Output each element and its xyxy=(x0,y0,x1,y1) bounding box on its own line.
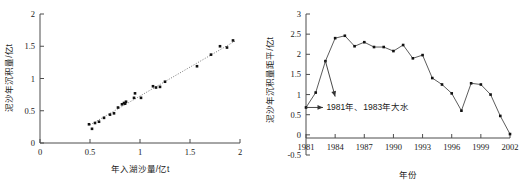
scatter-point xyxy=(159,86,162,89)
scatter-plot-svg: 00.511.52 00.511.52 年入湖沙量/亿t 泥沙年沉积量/亿t xyxy=(0,0,262,183)
scatter-point xyxy=(98,120,101,123)
timeseries-point xyxy=(402,44,405,47)
timeseries-y-ticks: -0.500.511.522.53 xyxy=(288,9,310,160)
scatter-point xyxy=(196,65,199,68)
figure-root: 00.511.52 00.511.52 年入湖沙量/亿t 泥沙年沉积量/亿t 1… xyxy=(0,0,523,183)
timeseries-x-axis-title: 年份 xyxy=(399,170,417,180)
scatter-x-axis-title: 年入湖沙量/亿t xyxy=(111,164,170,174)
timeseries-point xyxy=(460,109,463,112)
scatter-point xyxy=(109,113,112,116)
timeseries-point xyxy=(344,34,347,37)
y-tick-label: 2 xyxy=(297,49,301,59)
scatter-point xyxy=(210,53,213,56)
scatter-point xyxy=(134,92,137,95)
timeseries-series-line xyxy=(306,36,510,134)
timeseries-point xyxy=(373,46,376,49)
timeseries-point xyxy=(412,57,415,60)
annotation-arrow-shaft xyxy=(325,61,335,96)
scatter-point xyxy=(103,117,106,120)
timeseries-point xyxy=(499,115,502,118)
timeseries-point xyxy=(431,77,434,80)
scatter-point xyxy=(232,39,235,42)
y-tick-label: 1.5 xyxy=(24,41,35,51)
x-tick-label: 1984 xyxy=(327,142,345,152)
scatter-point xyxy=(88,123,91,126)
x-tick-label: 1990 xyxy=(385,142,402,152)
x-tick-label: 0 xyxy=(38,147,42,157)
chart-panel-timeseries: 19811984198719901993199619992002 -0.500.… xyxy=(262,0,523,183)
scatter-y-axis-title: 泥沙年沉积量/亿t xyxy=(4,44,14,112)
x-tick-label: 1.5 xyxy=(185,147,196,157)
timeseries-point xyxy=(421,54,424,57)
annotation-arrow-head xyxy=(318,105,324,110)
y-tick-label: 1 xyxy=(297,90,301,100)
timeseries-point xyxy=(509,133,512,136)
scatter-trendline xyxy=(90,41,235,125)
y-tick-label: 0.5 xyxy=(290,110,301,120)
scatter-point xyxy=(140,97,143,100)
x-tick-label: 0.5 xyxy=(85,147,96,157)
scatter-point xyxy=(133,97,136,100)
timeseries-points xyxy=(305,34,512,135)
y-tick-label: 2.5 xyxy=(290,29,301,39)
timeseries-annotation-label: 1981年、1983年大水 xyxy=(326,102,409,112)
scatter-point xyxy=(219,45,222,48)
timeseries-point xyxy=(470,82,473,85)
x-tick-label: 1999 xyxy=(472,142,489,152)
scatter-point xyxy=(155,86,158,89)
timeseries-x-ticks: 19811984198719901993199619992002 xyxy=(298,134,519,152)
y-tick-label: 2 xyxy=(31,9,35,19)
scatter-point xyxy=(125,100,128,103)
timeseries-plot-svg: 19811984198719901993199619992002 -0.500.… xyxy=(262,0,523,183)
timeseries-point xyxy=(450,92,453,95)
scatter-point xyxy=(94,122,97,125)
x-tick-label: 1993 xyxy=(414,142,431,152)
chart-panel-scatter: 00.511.52 00.511.52 年入湖沙量/亿t 泥沙年沉积量/亿t xyxy=(0,0,262,183)
x-tick-label: 1996 xyxy=(443,142,460,152)
y-tick-label: 1.5 xyxy=(290,69,301,79)
scatter-x-ticks: 00.511.52 xyxy=(38,139,242,157)
scatter-point xyxy=(113,112,116,115)
scatter-point xyxy=(117,106,120,109)
x-tick-label: 1987 xyxy=(356,142,373,152)
timeseries-point xyxy=(353,45,356,48)
y-tick-label: 0 xyxy=(31,138,35,148)
y-tick-label: -0.5 xyxy=(288,150,301,160)
timeseries-point xyxy=(392,50,395,53)
x-tick-label: 1 xyxy=(138,147,142,157)
timeseries-y-axis-title: 泥沙年沉积量距平/亿t xyxy=(265,37,275,123)
timeseries-point xyxy=(314,91,317,94)
timeseries-point xyxy=(480,83,483,86)
scatter-axes xyxy=(40,14,240,143)
y-tick-label: 1 xyxy=(31,74,35,84)
timeseries-point xyxy=(363,41,366,44)
y-tick-label: 0 xyxy=(297,130,301,140)
scatter-point xyxy=(152,85,155,88)
y-tick-label: 0.5 xyxy=(24,106,35,116)
timeseries-point xyxy=(382,46,385,49)
scatter-points xyxy=(88,39,235,130)
x-tick-label: 2002 xyxy=(502,142,519,152)
y-tick-label: 3 xyxy=(297,9,301,19)
timeseries-point xyxy=(334,37,337,40)
x-tick-label: 2 xyxy=(238,147,242,157)
scatter-point xyxy=(226,46,229,49)
timeseries-point xyxy=(441,83,444,86)
scatter-point xyxy=(91,128,94,131)
scatter-point xyxy=(164,80,167,83)
timeseries-point xyxy=(489,93,492,96)
scatter-y-ticks: 00.511.52 xyxy=(24,9,44,148)
